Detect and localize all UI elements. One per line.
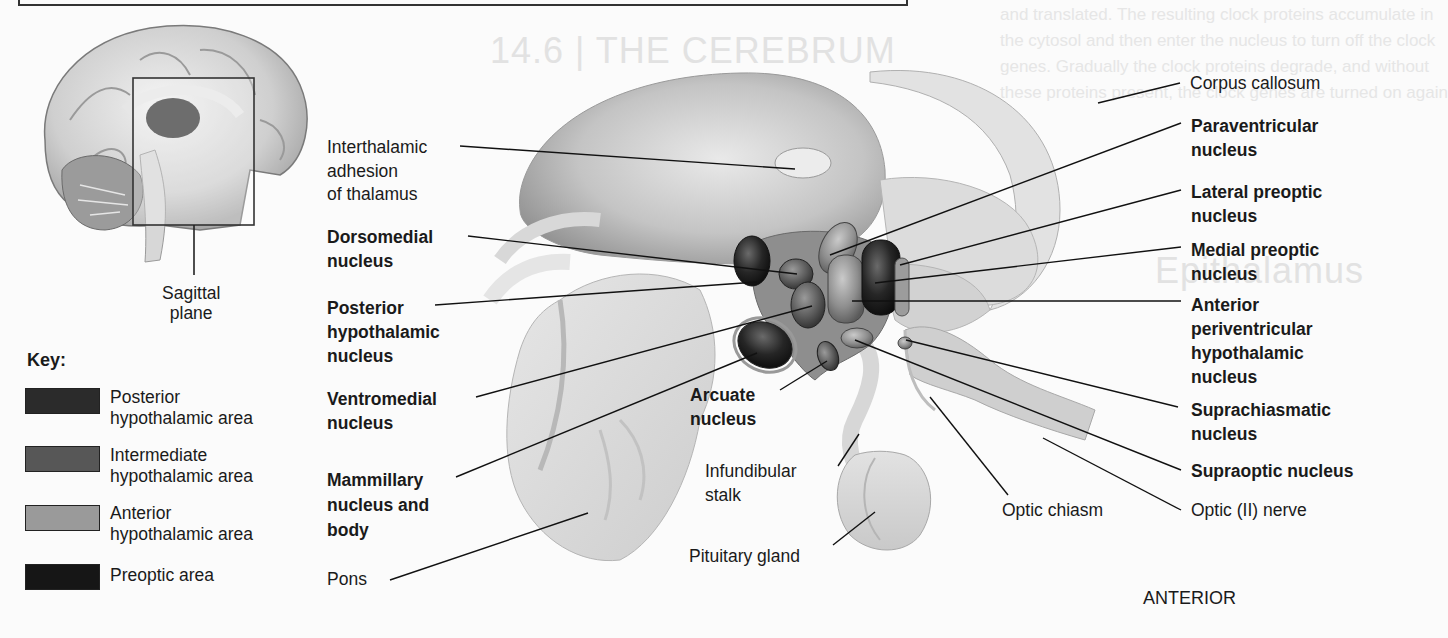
label-line: Arcuate xyxy=(690,383,756,407)
label-supraoptic-nucleus: Supraoptic nucleus xyxy=(1191,461,1353,481)
label-suprachiasmatic-nucleus: Suprachiasmatic nucleus xyxy=(1191,398,1331,446)
label-line: nucleus and xyxy=(327,493,429,518)
label-line: nucleus xyxy=(1191,365,1313,389)
label-pituitary-gland: Pituitary gland xyxy=(689,546,800,566)
label-interthalamic-adhesion: Interthalamic adhesion of thalamus xyxy=(327,136,427,207)
label-pons: Pons xyxy=(327,569,367,589)
label-dorsomedial-nucleus: Dorsomedial nucleus xyxy=(327,225,433,273)
label-line: nucleus xyxy=(327,249,433,273)
label-anterior-periventricular-hypothalamic-nucleus: Anterior periventricular hypothalamic nu… xyxy=(1191,293,1313,389)
label-line: nucleus xyxy=(327,411,437,435)
label-optic-chiasm: Optic chiasm xyxy=(1002,500,1103,520)
key-swatch-posterior xyxy=(25,388,100,414)
label-line: of thalamus xyxy=(327,183,427,207)
label-line: Ventromedial xyxy=(327,387,437,411)
label-line: adhesion xyxy=(327,160,427,184)
label-line: Corpus callosum xyxy=(1190,73,1320,93)
label-infundibular-stalk: Infundibular stalk xyxy=(705,459,796,507)
label-line: stalk xyxy=(705,483,796,507)
key-label-preoptic: Preoptic area xyxy=(110,565,214,586)
label-line: nucleus xyxy=(327,344,440,368)
label-line: Anterior xyxy=(1191,293,1313,317)
label-line: Optic (II) nerve xyxy=(1191,500,1307,520)
label-line: Infundibular xyxy=(705,459,796,483)
label-line: Anterior xyxy=(110,503,253,524)
label-line: Lateral preoptic xyxy=(1191,180,1322,204)
inset-brain xyxy=(45,26,307,275)
label-line: Medial preoptic xyxy=(1191,238,1319,262)
label-line: Interthalamic xyxy=(327,136,427,160)
label-line: Pituitary gland xyxy=(689,546,800,566)
label-optic-nerve: Optic (II) nerve xyxy=(1191,500,1307,520)
key-swatch-anterior xyxy=(25,505,100,531)
label-posterior-hypothalamic-nucleus: Posterior hypothalamic nucleus xyxy=(327,296,440,368)
label-line: body xyxy=(327,518,429,543)
label-line: Suprachiasmatic xyxy=(1191,398,1331,422)
label-line: Posterior xyxy=(110,387,253,408)
label-line: Optic chiasm xyxy=(1002,500,1103,520)
key-swatch-intermediate xyxy=(25,446,100,472)
label-medial-preoptic-nucleus: Medial preoptic nucleus xyxy=(1191,238,1319,286)
label-line: Posterior xyxy=(327,296,440,320)
label-line: nucleus xyxy=(1191,262,1319,286)
label-line: hypothalamic xyxy=(327,320,440,344)
label-line: plane xyxy=(162,303,220,323)
label-line: Sagittal xyxy=(162,283,220,303)
label-arcuate-nucleus: Arcuate nucleus xyxy=(690,383,756,431)
figure-top-frame xyxy=(18,0,908,6)
key-label-posterior: Posterior hypothalamic area xyxy=(110,387,253,429)
key-title: Key: xyxy=(27,350,66,371)
label-line: nucleus xyxy=(1191,138,1318,162)
key-label-intermediate: Intermediate hypothalamic area xyxy=(110,445,253,487)
label-corpus-callosum: Corpus callosum xyxy=(1190,73,1320,93)
label-line: nucleus xyxy=(690,407,756,431)
label-lateral-preoptic-nucleus: Lateral preoptic nucleus xyxy=(1191,180,1322,228)
label-line: hypothalamic area xyxy=(110,408,253,429)
label-mammillary-nucleus-and-body: Mammillary nucleus and body xyxy=(327,468,429,543)
label-line: Intermediate xyxy=(110,445,253,466)
label-paraventricular-nucleus: Paraventricular nucleus xyxy=(1191,114,1318,162)
label-line: Supraoptic nucleus xyxy=(1191,461,1353,481)
label-line: nucleus xyxy=(1191,422,1331,446)
label-line: nucleus xyxy=(1191,204,1322,228)
label-line: Mammillary xyxy=(327,468,429,493)
label-line: periventricular xyxy=(1191,317,1313,341)
sagittal-plane-label: Sagittal plane xyxy=(162,283,220,323)
label-line: Pons xyxy=(327,569,367,589)
label-line: hypothalamic area xyxy=(110,524,253,545)
orientation-label-anterior: ANTERIOR xyxy=(1143,588,1236,609)
key-label-anterior: Anterior hypothalamic area xyxy=(110,503,253,545)
label-line: Preoptic area xyxy=(110,565,214,586)
label-line: hypothalamic area xyxy=(110,466,253,487)
label-ventromedial-nucleus: Ventromedial nucleus xyxy=(327,387,437,435)
label-line: Dorsomedial xyxy=(327,225,433,249)
key-swatch-preoptic xyxy=(25,564,100,590)
label-line: hypothalamic xyxy=(1191,341,1313,365)
label-line: Paraventricular xyxy=(1191,114,1318,138)
